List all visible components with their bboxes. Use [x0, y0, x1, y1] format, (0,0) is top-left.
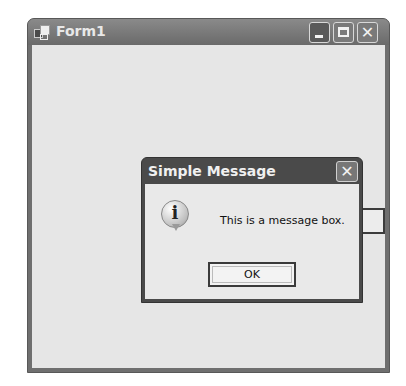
close-icon: ✕	[358, 22, 377, 43]
form-app-icon	[34, 25, 49, 39]
minimize-icon	[315, 35, 323, 38]
close-button[interactable]: ✕	[357, 22, 378, 43]
information-icon: i	[161, 200, 189, 228]
maximize-button[interactable]	[333, 22, 354, 43]
dialog-title: Simple Message	[148, 163, 276, 179]
form1-titlebar[interactable]: Form1 ✕	[28, 19, 389, 45]
dialog-close-button[interactable]: ✕	[336, 161, 358, 182]
dialog-client-area: i This is a message box. OK	[145, 184, 359, 299]
maximize-icon	[338, 27, 349, 37]
window-title: Form1	[56, 23, 106, 39]
ok-button[interactable]: OK	[208, 262, 296, 287]
message-text: This is a message box.	[220, 214, 345, 227]
minimize-button[interactable]	[309, 22, 330, 43]
close-icon: ✕	[337, 162, 357, 181]
message-box-dialog: Simple Message ✕ i This is a message box…	[141, 157, 363, 303]
